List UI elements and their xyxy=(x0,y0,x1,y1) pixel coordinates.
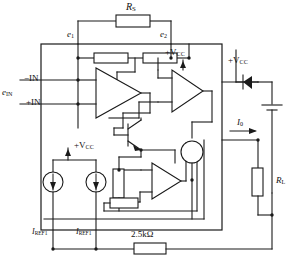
label-ein: eIN xyxy=(2,88,12,97)
junction-dot xyxy=(139,148,142,151)
resistor-bias-left xyxy=(94,53,128,63)
current-source-output-icon xyxy=(181,141,203,163)
transistor-collector xyxy=(128,120,141,129)
resistor-rs xyxy=(116,15,150,27)
junction-dot xyxy=(117,168,120,171)
junction-dot xyxy=(51,247,54,250)
label-e2: e2 xyxy=(160,30,167,39)
junction-dot xyxy=(76,102,79,105)
vcc-arrow-mid-icon xyxy=(180,61,186,68)
opamp-output-triangle xyxy=(172,70,203,112)
circuit-diagram: RS e1 e2 eIN −IN +IN +VCC +VCC +VCC IREF… xyxy=(0,0,297,264)
opamp-input-triangle xyxy=(96,68,141,118)
resistor-load-rl xyxy=(252,168,263,196)
diode-triangle-icon xyxy=(243,76,252,89)
junction-dot xyxy=(94,247,97,250)
label-iref1-left: IREF1 xyxy=(32,228,47,237)
junction-dot xyxy=(76,78,79,81)
label-plus-in: +IN xyxy=(26,98,41,107)
resistor-sense-horizontal xyxy=(110,198,138,208)
junction-dot xyxy=(270,213,273,216)
label-iref1-right: IREF1 xyxy=(76,228,91,237)
label-minus-in: −IN xyxy=(24,74,39,83)
junction-dot xyxy=(76,56,79,59)
label-e1: e1 xyxy=(67,30,74,39)
circuit-svg xyxy=(0,0,297,264)
resistor-2k5 xyxy=(134,243,166,254)
label-resistor-2k5: 2.5kΩ xyxy=(131,230,153,239)
resistor-sense-vertical xyxy=(113,169,124,198)
label-vcc-right: +VCC xyxy=(228,56,248,65)
junction-dot xyxy=(190,178,193,181)
opamp-lower-triangle xyxy=(152,163,181,199)
label-io: I0 xyxy=(237,118,243,127)
junction-dot xyxy=(187,56,190,59)
label-vcc-low: +VCC xyxy=(74,141,94,150)
vcc-arrow-low-icon xyxy=(65,149,71,156)
label-vcc-mid: +VCC xyxy=(165,48,185,57)
label-rs: RS xyxy=(126,2,136,13)
io-arrow-head-icon xyxy=(249,128,257,134)
label-rl: RL xyxy=(276,176,285,185)
junction-dot xyxy=(256,138,259,141)
